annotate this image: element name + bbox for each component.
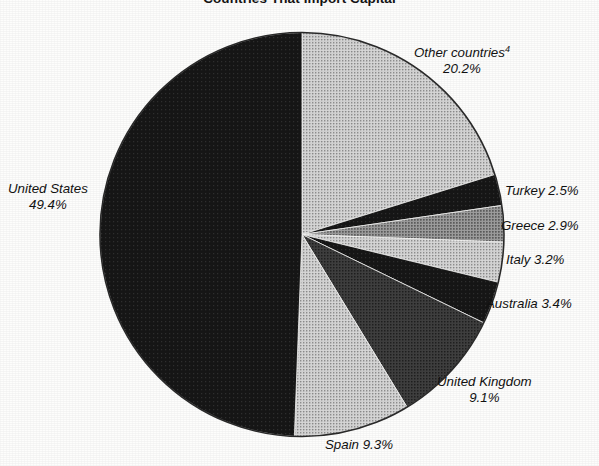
slice-label-greece: Greece 2.9%: [501, 218, 579, 234]
slice-label-italy: Italy 3.2%: [506, 252, 564, 268]
slice-value-united-states: 49.4%: [8, 197, 88, 213]
slice-value-united-kingdom: 9.1%: [437, 390, 532, 406]
slice-value-other-countries: 20.2%: [414, 61, 510, 77]
slice-label-spain: Spain 9.3%: [325, 437, 393, 453]
slice-label-united-kingdom: United Kingdom 9.1%: [437, 374, 532, 405]
slice-label-turkey: Turkey 2.5%: [505, 183, 579, 199]
footnote-marker-4: 4: [505, 44, 510, 54]
slice-label-other-countries-name: Other countries: [414, 45, 505, 60]
slice-label-australia: Australia 3.4%: [486, 296, 572, 312]
slice-label-united-states: United States 49.4%: [8, 181, 88, 212]
pie-slice-united-states[interactable]: [100, 32, 302, 436]
pie-chart-figure: Countries That Import Capital: [0, 0, 599, 466]
slice-label-other-countries: Other countries4 20.2%: [414, 42, 510, 76]
